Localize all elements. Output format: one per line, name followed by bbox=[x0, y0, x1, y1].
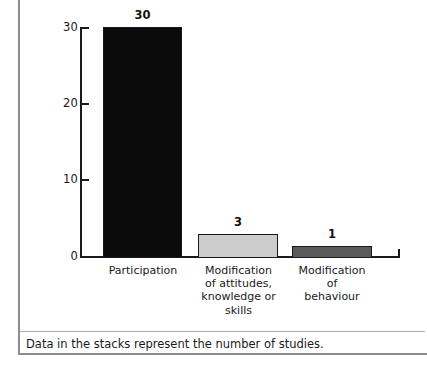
caption-divider bbox=[20, 331, 425, 332]
y-tick-mark-30 bbox=[82, 27, 89, 29]
x-axis-category-label-modification-behaviour: Modification of behaviour bbox=[282, 264, 382, 304]
bar-value-label-participation: 30 bbox=[103, 10, 182, 22]
x-axis-end-tick bbox=[398, 249, 400, 258]
y-tick-mark-0 bbox=[82, 256, 89, 258]
bar-modification-attitudes[interactable] bbox=[198, 234, 278, 258]
bar-value-label-modification-behaviour: 1 bbox=[292, 229, 372, 241]
bar-participation[interactable] bbox=[103, 27, 182, 258]
y-tick-label-20: 20 bbox=[63, 98, 78, 110]
bar-value-label-modification-attitudes: 3 bbox=[198, 217, 278, 229]
bar-modification-behaviour[interactable] bbox=[292, 246, 372, 258]
y-tick-mark-10 bbox=[82, 179, 89, 181]
x-axis-category-label-modification-attitudes: Modification of attitudes, knowledge or … bbox=[186, 264, 291, 317]
y-tick-mark-20 bbox=[82, 103, 89, 105]
y-tick-label-0: 0 bbox=[70, 251, 78, 263]
figure-container: 0 10 20 30 30 3 1 Participation Modifica… bbox=[0, 0, 427, 365]
figure-caption: Data in the stacks represent the number … bbox=[26, 337, 324, 351]
figure-frame-bottom-border bbox=[18, 353, 427, 355]
y-tick-label-10: 10 bbox=[63, 174, 78, 186]
y-tick-label-30: 30 bbox=[63, 22, 78, 34]
bar-chart-plot-area: 0 10 20 30 30 3 1 Participation Modifica… bbox=[0, 0, 427, 331]
x-axis-category-label-participation: Participation bbox=[88, 264, 198, 277]
y-axis-line bbox=[80, 27, 82, 258]
